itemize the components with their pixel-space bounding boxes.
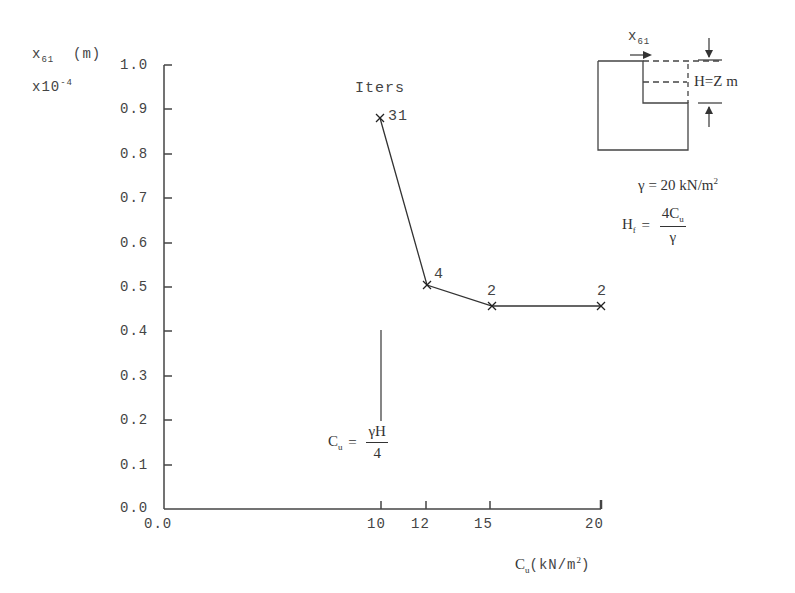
x-axis-label-unit: (kN/m: [530, 557, 577, 573]
cu-eq-lhs-main: C: [328, 433, 338, 449]
inset-height-label: H=Z m: [694, 73, 738, 90]
y-tick-label: 0.9: [120, 101, 148, 117]
data-point-markers: [376, 114, 605, 310]
hf-eq-lhs-main: H: [622, 216, 633, 232]
y-axis-scale: x10-4: [32, 78, 73, 95]
y-tick-label: 0.2: [120, 412, 148, 428]
x-tick-label: 15: [474, 516, 493, 532]
y-axis-label-unit: (m): [73, 46, 101, 62]
gamma-label-text: γ = 20 kN/m: [638, 177, 714, 193]
x-axis-label-main: C: [515, 556, 525, 572]
x-axis-label: Cu(kN/m2): [515, 555, 590, 575]
y-tick-label: 0.7: [120, 190, 148, 206]
y-axis-label-main: x: [32, 46, 41, 62]
inset-slope-diagram: [598, 38, 722, 150]
y-tick-label: 0.8: [120, 146, 148, 162]
x-axis-label-close: ): [581, 557, 590, 573]
hf-eq-numerator: 4Cu: [660, 205, 686, 227]
iter-count-label: 2: [597, 283, 607, 300]
x-tick-label: 20: [585, 516, 604, 532]
x-tick-label: 0.0: [144, 516, 172, 532]
iters-title: Iters: [355, 80, 405, 97]
hf-eq-fraction: 4Cu γ: [660, 205, 686, 246]
cu-equation: Cu = γH 4: [328, 423, 388, 462]
y-axis-scale-exp: -4: [60, 78, 73, 88]
y-ticks: [164, 65, 172, 465]
hf-eq-num-main: 4C: [662, 205, 680, 221]
y-tick-label: 0.5: [120, 279, 148, 295]
gamma-label: γ = 20 kN/m2: [638, 176, 718, 194]
cu-eq-fraction: γH 4: [366, 423, 387, 462]
iter-count-label: 2: [487, 283, 497, 300]
gamma-label-exp: 2: [714, 176, 719, 186]
y-axis-label: x61 (m): [32, 46, 101, 65]
iter-count-label: 4: [434, 266, 444, 283]
x-tick-label: 10: [367, 516, 386, 532]
hf-eq-lhs-sub: f: [633, 225, 636, 235]
iter-count-label: 31: [388, 108, 408, 125]
y-tick-label: 1.0: [120, 57, 148, 73]
hf-eq-lhs: Hf: [622, 216, 636, 232]
inset-x61-label: x61: [628, 28, 650, 47]
cu-eq-lhs-sub: u: [338, 442, 343, 452]
data-series-line: [380, 118, 601, 306]
y-tick-label: 0.6: [120, 235, 148, 251]
cu-eq-lhs: Cu: [328, 433, 343, 449]
cu-eq-numerator: γH: [366, 423, 387, 443]
inset-x61-sub: 61: [637, 37, 650, 47]
cu-eq-denominator: 4: [366, 443, 387, 462]
y-tick-label: 0.0: [120, 500, 148, 516]
hf-eq-sign: =: [642, 217, 650, 233]
hf-equation: Hf = 4Cu γ: [622, 205, 686, 246]
x-ticks: [381, 500, 601, 509]
hf-eq-denominator: γ: [660, 227, 686, 246]
y-axis-label-sub: 61: [41, 55, 54, 65]
y-tick-label: 0.3: [120, 368, 148, 384]
y-axis-scale-base: x10: [32, 79, 60, 95]
hf-eq-num-sub: u: [679, 214, 684, 224]
y-tick-label: 0.4: [120, 323, 148, 339]
y-tick-label: 0.1: [120, 457, 148, 473]
inset-x61-main: x: [628, 28, 637, 44]
x-tick-label: 12: [411, 516, 430, 532]
cu-eq-sign: =: [348, 434, 356, 450]
